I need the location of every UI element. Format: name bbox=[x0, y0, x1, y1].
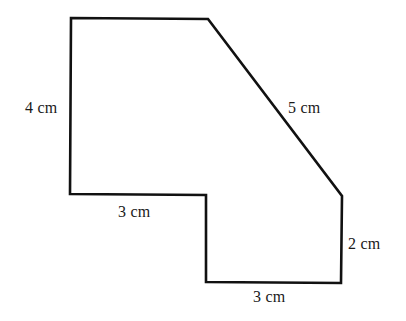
shape-outline bbox=[70, 18, 342, 283]
label-left-side-length: 4 cm bbox=[25, 100, 57, 116]
label-diagonal-side-length: 5 cm bbox=[288, 100, 320, 116]
composite-shape bbox=[0, 0, 406, 321]
label-bottom-side-length: 3 cm bbox=[253, 289, 285, 305]
diagram-canvas: 4 cm 5 cm 3 cm 2 cm 3 cm bbox=[0, 0, 406, 321]
label-right-side-length: 2 cm bbox=[348, 236, 380, 252]
label-step-bottom-length: 3 cm bbox=[118, 204, 150, 220]
